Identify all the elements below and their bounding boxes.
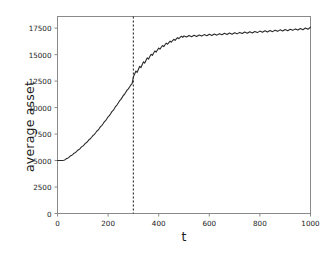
y-tick-label: 15000 <box>0 50 52 59</box>
x-tick-label: 200 <box>101 219 115 228</box>
x-tick-label: 800 <box>253 219 267 228</box>
x-tick-label: 400 <box>152 219 166 228</box>
x-axis-label: t <box>57 229 311 244</box>
y-tick-label: 12500 <box>0 77 52 86</box>
y-tick-label: 5000 <box>0 156 52 165</box>
y-tick-label: 10000 <box>0 103 52 112</box>
plot-frame <box>58 17 311 214</box>
x-tick-label: 600 <box>202 219 216 228</box>
y-tick-label: 7500 <box>0 130 52 139</box>
y-tick-label: 0 <box>0 209 52 218</box>
x-tick-label: 0 <box>55 219 60 228</box>
x-tick-label: 1000 <box>301 219 319 228</box>
chart-figure: average asset t 025005000750010000125001… <box>0 0 331 253</box>
y-tick-label: 2500 <box>0 183 52 192</box>
data-series-line <box>58 27 311 160</box>
y-tick-label: 17500 <box>0 24 52 33</box>
